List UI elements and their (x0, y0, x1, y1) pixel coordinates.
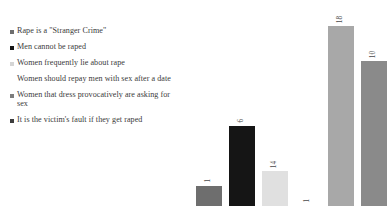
legend-item-label: Women frequently lie about rape (17, 58, 125, 67)
bar-rect[interactable] (328, 26, 354, 206)
bar-value-label: 14 (271, 161, 278, 168)
legend-item-label: Men cannot be raped (17, 42, 86, 51)
legend-swatch-square-icon (10, 30, 14, 34)
bar-value-label: 6 (238, 119, 245, 123)
bar-rect[interactable] (196, 186, 222, 206)
bar-group[interactable]: 10 (361, 51, 387, 206)
legend-item[interactable]: Women frequently lie about rape (10, 58, 182, 67)
bar-value-label: 1 (205, 179, 212, 183)
bar-value-label: 1 (304, 199, 311, 203)
bar-group[interactable]: 1 (295, 199, 321, 206)
chart-plot-area: 1 6 14 1 18 (190, 0, 391, 220)
legend-swatch-square-icon (10, 119, 14, 123)
legend-swatch-square-icon (10, 94, 14, 98)
legend-item-label: Women that dress provocatively are askin… (17, 90, 182, 108)
legend-swatch-square-icon (10, 46, 14, 50)
bar-rect[interactable] (262, 171, 288, 206)
bar-value-label: 18 (337, 16, 344, 23)
bar-value-label: 10 (370, 51, 377, 58)
legend-item-label: Women should repay men with sex after a … (17, 74, 171, 83)
bar-group[interactable]: 6 (229, 119, 255, 206)
bar-group[interactable]: 1 (196, 179, 222, 206)
legend-item[interactable]: Rape is a "Stranger Crime" (10, 26, 182, 35)
legend-item[interactable]: Women should repay men with sex after a … (10, 74, 182, 83)
legend-swatch-square-icon (10, 78, 14, 82)
bar-group[interactable]: 14 (262, 161, 288, 206)
legend-item[interactable]: It is the victim's fault if they get rap… (10, 115, 182, 124)
legend-item[interactable]: Men cannot be raped (10, 42, 182, 51)
bar-rect[interactable] (361, 61, 387, 206)
bar-group[interactable]: 18 (328, 16, 354, 206)
legend-item-label: Rape is a "Stranger Crime" (17, 26, 106, 35)
legend-item[interactable]: Women that dress provocatively are askin… (10, 90, 182, 108)
chart-legend: Rape is a "Stranger Crime" Men cannot be… (10, 26, 182, 131)
chart-figure: Rape is a "Stranger Crime" Men cannot be… (0, 0, 391, 220)
legend-swatch-square-icon (10, 62, 14, 66)
bar-rect[interactable] (229, 126, 255, 206)
legend-item-label: It is the victim's fault if they get rap… (17, 115, 142, 124)
